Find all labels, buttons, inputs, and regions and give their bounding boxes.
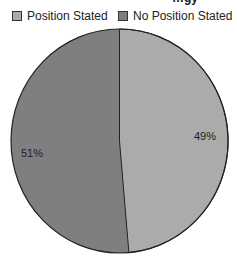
slice-label-no-position-stated: 51%	[21, 147, 43, 159]
slice-label-position-stated: 49%	[194, 130, 216, 142]
pie-chart: 49% 51%	[0, 0, 237, 262]
